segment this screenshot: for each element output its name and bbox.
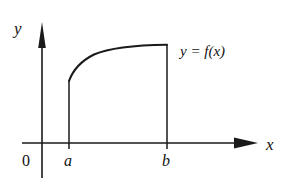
x-axis-arrow-icon xyxy=(234,138,258,149)
y-axis-arrow-icon xyxy=(38,22,46,48)
origin-label: 0 xyxy=(22,152,30,169)
x-axis-label: x xyxy=(265,135,274,154)
function-curve xyxy=(69,45,167,81)
y-axis-label: y xyxy=(12,19,22,38)
curve-equation-label: y = f(x) xyxy=(178,43,225,60)
integral-area-diagram: y x 0 a b y = f(x) xyxy=(0,0,294,190)
tick-label-b: b xyxy=(162,152,170,169)
tick-label-a: a xyxy=(64,152,72,169)
